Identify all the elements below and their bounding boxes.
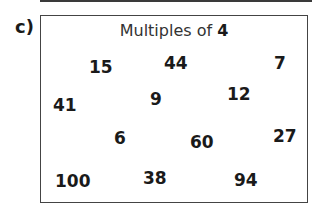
box-title: Multiples of 4 [41,21,307,40]
number-item[interactable]: 12 [227,84,251,104]
number-item[interactable]: 60 [190,132,214,152]
box-title-text: Multiples of [120,21,217,40]
top-divider-line [40,0,312,2]
number-item[interactable]: 94 [234,170,258,190]
number-item[interactable]: 44 [164,53,188,73]
number-item[interactable]: 41 [53,95,77,115]
number-item[interactable]: 6 [114,128,126,148]
box-title-number: 4 [217,21,228,40]
number-item[interactable]: 38 [143,168,167,188]
number-item[interactable]: 9 [150,89,162,109]
number-item[interactable]: 7 [274,53,286,73]
number-item[interactable]: 15 [89,57,113,77]
number-item[interactable]: 27 [273,126,297,146]
question-label: c) [15,16,34,37]
number-item[interactable]: 100 [55,171,91,191]
